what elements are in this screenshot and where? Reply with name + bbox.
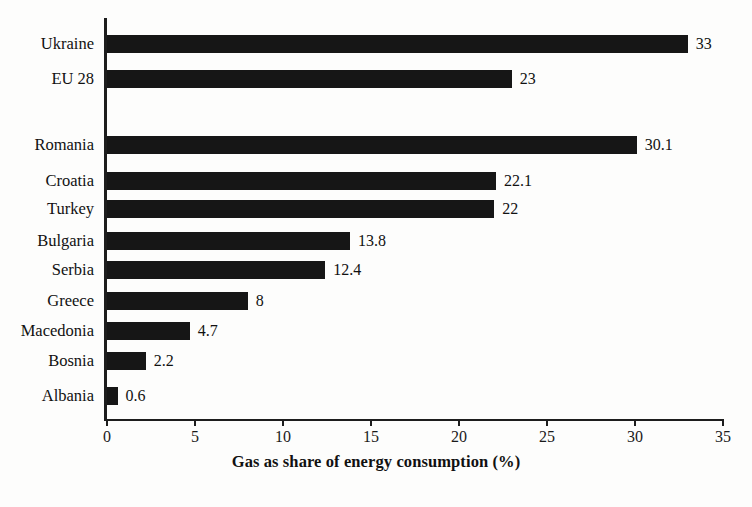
bar-row: Bulgaria13.8	[0, 232, 752, 250]
category-label: Ukraine	[0, 35, 94, 53]
bar	[107, 70, 512, 88]
bar	[107, 292, 248, 310]
bar-value-label: 8	[256, 292, 264, 310]
bar	[107, 387, 118, 405]
bar	[107, 200, 494, 218]
bar-row: Macedonia4.7	[0, 322, 752, 340]
bar-chart: 05101520253035 Ukraine33EU 2823Romania30…	[0, 0, 752, 507]
bar-value-label: 0.6	[126, 387, 146, 405]
x-axis-tick-label: 25	[527, 427, 567, 447]
x-axis-tick-label: 10	[263, 427, 303, 447]
bar-row: Romania30.1	[0, 136, 752, 154]
x-axis-tick	[634, 419, 636, 426]
x-axis-tick	[722, 419, 724, 426]
bar-row: Greece8	[0, 292, 752, 310]
bar-value-label: 2.2	[154, 352, 174, 370]
x-axis-tick-label: 15	[351, 427, 391, 447]
x-axis-tick	[370, 419, 372, 426]
bar	[107, 35, 688, 53]
category-label: Macedonia	[0, 322, 94, 340]
bar	[107, 232, 350, 250]
x-axis-tick-label: 30	[615, 427, 655, 447]
plot-area: 05101520253035 Ukraine33EU 2823Romania30…	[0, 0, 752, 507]
x-axis-tick-label: 5	[175, 427, 215, 447]
x-axis-tick	[106, 419, 108, 426]
bar-value-label: 12.4	[333, 261, 361, 279]
bar-value-label: 23	[520, 70, 536, 88]
x-axis-tick	[194, 419, 196, 426]
bar-row: Serbia12.4	[0, 261, 752, 279]
bar-value-label: 30.1	[645, 136, 673, 154]
bar-value-label: 33	[696, 35, 712, 53]
bar-value-label: 4.7	[198, 322, 218, 340]
x-axis-tick-label: 20	[439, 427, 479, 447]
category-label: Greece	[0, 292, 94, 310]
x-axis-line	[104, 419, 724, 421]
bar-row: Ukraine33	[0, 35, 752, 53]
category-label: Bulgaria	[0, 232, 94, 250]
bar-row: Albania0.6	[0, 387, 752, 405]
x-axis-tick	[458, 419, 460, 426]
bar	[107, 352, 146, 370]
bar-value-label: 22.1	[504, 172, 532, 190]
category-label: Albania	[0, 387, 94, 405]
category-label: EU 28	[0, 70, 94, 88]
category-label: Bosnia	[0, 352, 94, 370]
x-axis-tick	[282, 419, 284, 426]
bar	[107, 136, 637, 154]
category-label: Serbia	[0, 261, 94, 279]
bar	[107, 172, 496, 190]
bar	[107, 261, 325, 279]
bar-row: Bosnia2.2	[0, 352, 752, 370]
bar-value-label: 22	[502, 200, 518, 218]
category-label: Romania	[0, 136, 94, 154]
bar-row: EU 2823	[0, 70, 752, 88]
x-axis-tick-label: 35	[703, 427, 743, 447]
x-axis-title: Gas as share of energy consumption (%)	[0, 452, 752, 472]
bar-row: Croatia22.1	[0, 172, 752, 190]
bar-value-label: 13.8	[358, 232, 386, 250]
bar	[107, 322, 190, 340]
bar-row: Turkey22	[0, 200, 752, 218]
x-axis-tick-label: 0	[87, 427, 127, 447]
x-axis-tick	[546, 419, 548, 426]
category-label: Croatia	[0, 172, 94, 190]
category-label: Turkey	[0, 200, 94, 218]
